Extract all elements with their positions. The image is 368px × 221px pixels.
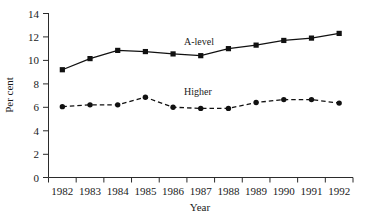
x-tick-label: 1992 xyxy=(328,185,350,197)
x-tick-label: 1989 xyxy=(245,185,268,197)
data-point-marker xyxy=(281,38,286,43)
x-tick-label: 1982 xyxy=(51,185,73,197)
y-tick-label: 4 xyxy=(34,125,40,137)
y-tick-label: 8 xyxy=(34,78,40,90)
data-point-marker xyxy=(143,95,148,100)
y-tick-label: 14 xyxy=(28,8,40,20)
x-tick-label: 1985 xyxy=(134,185,157,197)
data-point-marker xyxy=(309,97,314,102)
data-point-marker xyxy=(281,97,286,102)
x-tick-label: 1990 xyxy=(273,185,296,197)
x-axis-ticks xyxy=(49,178,354,183)
y-axis-title: Per cent xyxy=(3,77,15,113)
line-chart: 14 12 10 8 6 4 2 0 198219831984198519861… xyxy=(0,0,368,221)
y-axis-ticks xyxy=(43,14,49,178)
data-point-marker xyxy=(60,67,65,72)
data-point-marker xyxy=(254,43,259,48)
x-tick-label: 1991 xyxy=(300,185,322,197)
y-tick-label: 2 xyxy=(34,148,40,160)
data-point-marker xyxy=(336,100,341,105)
data-point-marker xyxy=(226,46,231,51)
y-tick-label: 10 xyxy=(28,54,40,66)
data-point-marker xyxy=(60,104,65,109)
x-tick-label: 1986 xyxy=(162,185,185,197)
x-tick-label: 1988 xyxy=(217,185,240,197)
x-tick-label: 1984 xyxy=(107,185,130,197)
data-point-marker xyxy=(87,102,92,107)
series-label-a-level: A-level xyxy=(184,36,214,47)
data-point-marker xyxy=(87,56,92,61)
chart-container: 14 12 10 8 6 4 2 0 198219831984198519861… xyxy=(0,0,368,221)
data-point-marker xyxy=(143,49,148,54)
data-point-marker xyxy=(170,51,175,56)
y-axis-tick-labels: 14 12 10 8 6 4 2 0 xyxy=(28,8,40,184)
data-point-marker xyxy=(115,102,120,107)
data-point-marker xyxy=(309,36,314,41)
series-higher xyxy=(60,95,342,112)
data-point-marker xyxy=(198,53,203,58)
higher-markers xyxy=(60,95,342,112)
data-point-marker xyxy=(253,100,258,105)
y-tick-label: 0 xyxy=(34,172,40,184)
data-point-marker xyxy=(337,31,342,36)
series-label-higher: Higher xyxy=(184,86,212,97)
data-point-marker xyxy=(115,48,120,53)
data-point-marker xyxy=(226,106,231,111)
x-tick-label: 1987 xyxy=(190,185,213,197)
y-tick-label: 6 xyxy=(34,101,40,113)
x-axis-tick-labels: 1982198319841985198619871988198919901991… xyxy=(51,185,350,197)
data-point-marker xyxy=(198,106,203,111)
data-point-marker xyxy=(170,105,175,110)
x-tick-label: 1983 xyxy=(79,185,102,197)
y-tick-label: 12 xyxy=(28,31,39,43)
x-axis-title: Year xyxy=(190,201,211,213)
